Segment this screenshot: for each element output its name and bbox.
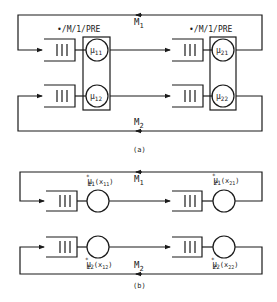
class-m1-label-b: M1	[134, 174, 144, 187]
server-21-circle-b	[213, 190, 235, 212]
caption-a: (a)	[133, 146, 146, 154]
queue-11	[44, 39, 86, 61]
server-12-circle-b	[87, 236, 109, 258]
server-22-circle-b	[213, 236, 235, 258]
server-12-label: μ12	[90, 92, 102, 102]
server-11-rate-b: μ*11(x11)	[86, 173, 114, 187]
station-1-label: •/M/1/PRE	[57, 25, 101, 34]
class-m2-label-b: M2	[134, 260, 144, 273]
station-2-label: •/M/1/PRE	[189, 25, 233, 34]
queue-12	[44, 85, 86, 107]
queue-21	[172, 39, 213, 61]
queue-22-b	[172, 237, 213, 257]
queueing-network-figure: •/M/1/PRE •/M/1/PRE M1 M2 μ11 μ12 μ21 μ2…	[0, 0, 277, 302]
caption-b: (b)	[133, 282, 146, 290]
class-m2-label: M2	[134, 117, 144, 130]
server-22-label: μ22	[216, 92, 228, 102]
server-21-rate-b: μ*21(x21)	[212, 172, 240, 186]
queue-21-b	[172, 191, 213, 211]
server-11-circle-b	[87, 190, 109, 212]
queue-12-b	[46, 237, 87, 257]
class-m1-label: M1	[134, 17, 144, 30]
queue-22	[172, 85, 213, 107]
diagram-b-labels: M1 M2 μ*11(x11) μ*12(x12) μ*21(x21) μ*22…	[85, 172, 240, 290]
diagram-b	[20, 172, 262, 274]
server-11-label: μ11	[90, 46, 102, 56]
queue-11-b	[46, 191, 87, 211]
server-21-label: μ21	[216, 46, 228, 56]
